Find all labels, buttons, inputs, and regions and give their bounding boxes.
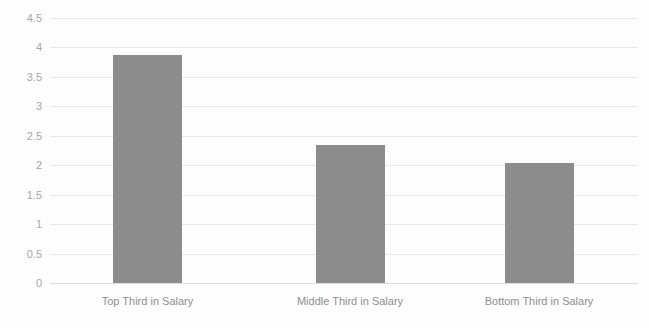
- x-axis-category-label: Top Third in Salary: [102, 296, 194, 307]
- x-axis-category-label: Middle Third in Salary: [297, 296, 403, 307]
- y-axis-tick-label: 3.5: [0, 71, 42, 82]
- y-axis-tick-label: 0: [0, 278, 42, 289]
- y-axis-tick-label: 1: [0, 219, 42, 230]
- y-axis-tick-label: 4.5: [0, 13, 42, 24]
- bar: [316, 145, 385, 283]
- y-axis-tick-label: 2: [0, 160, 42, 171]
- gridline: [50, 18, 638, 19]
- axis-baseline: [50, 283, 638, 284]
- plot-area: [50, 18, 638, 283]
- y-axis-tick-label: 0.5: [0, 248, 42, 259]
- y-axis-tick-label: 2.5: [0, 130, 42, 141]
- x-axis-category-label: Bottom Third in Salary: [485, 296, 594, 307]
- y-axis-tick-label: 4: [0, 42, 42, 53]
- y-axis-tick-label: 1.5: [0, 189, 42, 200]
- bar: [505, 163, 574, 283]
- gridline: [50, 47, 638, 48]
- bar: [113, 55, 182, 283]
- y-axis-tick-label: 3: [0, 101, 42, 112]
- bar-chart: 4.543.532.521.510.50 Top Third in Salary…: [0, 0, 649, 328]
